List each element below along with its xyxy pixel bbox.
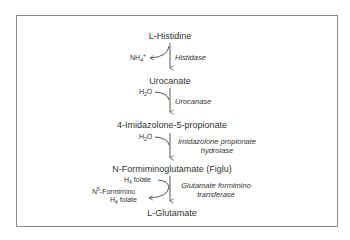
compound-urocanate: Urocanate (149, 76, 191, 86)
cosubstrate-tetrahydrofolate: H4 folate (124, 176, 151, 184)
side-product-ammonium: NH4+ (130, 54, 146, 62)
enzyme-imidazolone-propionate-hydrolase-line2: hydrolase (201, 146, 234, 155)
compound-l-glutamate: L-Glutamate (147, 208, 197, 218)
enzyme-glutamate-formimino-transferase-line2: transferase (197, 190, 235, 199)
enzyme-histidase: Histidase (175, 53, 206, 62)
side-product-formimino-thf-line1: N5-Formimino (92, 188, 135, 196)
side-product-formimino-thf-line2: H4 folate (110, 196, 137, 204)
compound-formiminoglutamate: N-Formiminoglutamate (Figlu) (112, 164, 232, 174)
enzyme-imidazolone-propionate-hydrolase-line1: Imidazolone propionate (178, 137, 256, 146)
enzyme-urocanase: Urocanase (175, 97, 211, 106)
compound-l-histidine: L-Histidine (149, 31, 192, 41)
compound-imidazolone-propionate: 4-Imidazolone-5-propionate (117, 120, 227, 130)
cosubstrate-water-1: H2O (139, 88, 152, 96)
cosubstrate-water-2: H2O (139, 133, 152, 141)
enzyme-glutamate-formimino-transferase-line1: Glutamate formimino (181, 181, 251, 190)
